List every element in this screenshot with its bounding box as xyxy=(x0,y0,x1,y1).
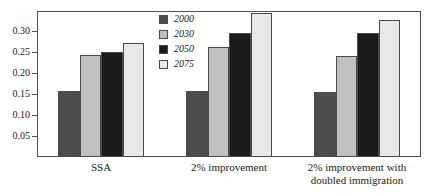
bar xyxy=(336,56,358,157)
bar xyxy=(80,55,102,157)
legend-item-label: 2000 xyxy=(174,14,194,24)
bar xyxy=(186,91,208,157)
bar xyxy=(251,13,273,157)
legend-item: 2050 xyxy=(159,42,221,56)
bar xyxy=(314,92,336,157)
x-category-label-line: SSA xyxy=(37,161,165,174)
y-tick-label: 0.10 xyxy=(13,110,31,120)
legend: 2000203020502075 xyxy=(159,12,221,72)
y-tick-label: 0.05 xyxy=(13,131,31,141)
x-axis: SSA2% improvement2% improvement withdoub… xyxy=(37,161,421,196)
legend-item-label: 2050 xyxy=(174,44,194,54)
x-category-label-line: doubled immigration xyxy=(293,174,421,187)
bar-series-layer xyxy=(37,11,421,157)
legend-item-label: 2030 xyxy=(174,29,194,39)
legend-swatch-icon xyxy=(159,60,168,69)
y-tick-label: 0.20 xyxy=(13,68,31,78)
bar xyxy=(101,52,123,157)
x-category-label: 2% improvement xyxy=(165,161,293,174)
bar xyxy=(123,43,145,157)
y-tick-label: 0.25 xyxy=(13,47,31,57)
y-tick-label: 0.30 xyxy=(13,26,31,36)
legend-item: 2075 xyxy=(159,57,221,71)
y-axis: 0.050.100.150.200.250.30 xyxy=(0,0,34,196)
chart-figure: 0.050.100.150.200.250.30 200020302050207… xyxy=(0,0,431,196)
bar xyxy=(58,91,80,157)
bar xyxy=(229,33,251,157)
bar xyxy=(357,33,379,157)
legend-swatch-icon xyxy=(159,30,168,39)
legend-item: 2030 xyxy=(159,27,221,41)
legend-swatch-icon xyxy=(159,45,168,54)
x-category-label: 2% improvement withdoubled immigration xyxy=(293,161,421,187)
y-tick-label: 0.15 xyxy=(13,89,31,99)
x-category-label: SSA xyxy=(37,161,165,174)
x-category-label-line: 2% improvement xyxy=(165,161,293,174)
x-category-label-line: 2% improvement with xyxy=(293,161,421,174)
legend-item-label: 2075 xyxy=(174,59,194,69)
legend-item: 2000 xyxy=(159,12,221,26)
legend-swatch-icon xyxy=(159,15,168,24)
bar xyxy=(379,20,401,157)
